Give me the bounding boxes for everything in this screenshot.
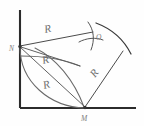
- geometry-figure: N M O R R R R: [0, 0, 144, 126]
- label-radius-right: R: [86, 66, 100, 80]
- point-M-dot: [83, 106, 86, 109]
- geometry-canvas: N M O R R R R: [0, 0, 144, 126]
- label-point-N: N: [8, 44, 15, 53]
- segment-M-to-outer-arc: [85, 51, 123, 107]
- arc-cross-vertical-at-O: [88, 22, 93, 50]
- label-radius-lower: R: [40, 78, 51, 92]
- label-point-M: M: [80, 114, 88, 123]
- label-radius-top: R: [42, 22, 52, 35]
- point-N-dot: [18, 45, 21, 48]
- label-radius-middle: R: [40, 53, 50, 66]
- label-point-O: O: [96, 33, 102, 42]
- segment-N-to-M: [20, 47, 85, 107]
- segment-N-to-O: [20, 32, 93, 46]
